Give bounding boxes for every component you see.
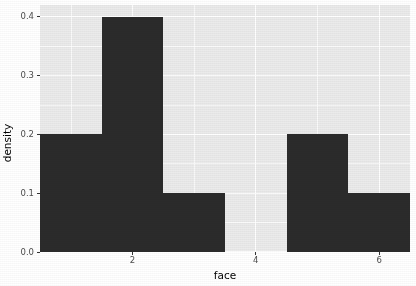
- y-tick-mark: [37, 252, 40, 253]
- bar: [102, 17, 164, 252]
- gridline-x-major: [255, 5, 256, 252]
- bar-chart: density 0.00.10.20.30.4 246 face: [0, 0, 416, 286]
- y-tick-label: 0.1: [0, 189, 34, 198]
- plot-panel: [40, 5, 410, 252]
- x-tick-mark: [379, 252, 380, 255]
- gridline-y-minor: [40, 46, 410, 47]
- y-tick-label: 0.3: [0, 71, 34, 80]
- x-tick-label: 6: [367, 256, 391, 265]
- x-axis-title: face: [40, 268, 410, 282]
- y-tick-mark: [37, 134, 40, 135]
- y-tick-label: 0.4: [0, 12, 34, 21]
- y-axis-title: density: [0, 0, 14, 286]
- x-tick-mark: [132, 252, 133, 255]
- x-tick-mark: [255, 252, 256, 255]
- y-tick-mark: [37, 16, 40, 17]
- y-tick-label: 0.0: [0, 248, 34, 257]
- y-tick-mark: [37, 75, 40, 76]
- gridline-y-major: [40, 75, 410, 76]
- y-tick-label: 0.2: [0, 130, 34, 139]
- bar: [348, 193, 410, 252]
- gridline-y-minor: [40, 105, 410, 106]
- y-tick-mark: [37, 193, 40, 194]
- bar: [40, 134, 102, 252]
- gridline-y-major: [40, 16, 410, 17]
- x-tick-label: 4: [244, 256, 268, 265]
- bar: [163, 193, 225, 252]
- x-tick-label: 2: [121, 256, 145, 265]
- bar: [287, 134, 349, 252]
